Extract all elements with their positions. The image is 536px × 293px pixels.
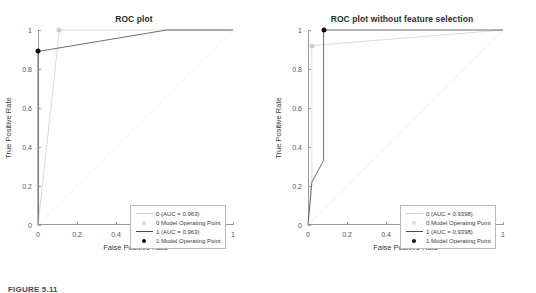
y-axis-title: True Positive Rate <box>274 97 283 158</box>
plot-axes-right: 0 0.2 0.4 0.6 0.8 1 0 0.2 0.4 0.6 0.8 1 … <box>308 30 503 225</box>
legend-line-icon <box>134 213 154 214</box>
y-tick-label: 0.2 <box>292 183 302 190</box>
y-tick-label: 0.4 <box>292 144 302 151</box>
roc-figure: ROC plot 0 0.2 0.4 0.6 0.8 1 <box>0 0 536 293</box>
operating-point-class1 <box>36 49 41 54</box>
x-tick-label: 0 <box>306 231 310 238</box>
legend-dot-icon <box>134 239 154 243</box>
legend-label: 0 Model Operating Point <box>154 220 221 226</box>
y-tick-label: 0 <box>298 222 302 229</box>
legend-item: 1 (AUC = 0.9398) <box>404 227 491 236</box>
figure-caption: FIGURE 5.11 <box>8 285 58 293</box>
legend-label: 1 (AUC = 0.963) <box>154 229 200 235</box>
roc-curves-right <box>308 30 503 225</box>
operating-point-class1 <box>321 28 326 33</box>
legend-dot-icon <box>404 239 424 243</box>
legend-label: 1 Model Operating Point <box>424 238 491 244</box>
x-tick-label: 0.2 <box>72 231 82 238</box>
legend-label: 1 (AUC = 0.9398) <box>424 229 473 235</box>
x-tick-label: 0.4 <box>111 231 121 238</box>
x-tick-label: 0.2 <box>342 231 352 238</box>
roc-curves-left <box>38 30 233 225</box>
panel-roc-without-feature-selection: ROC plot without feature selection 0 0.2… <box>268 0 536 275</box>
x-tick-label: 1 <box>501 231 505 238</box>
x-tick-label: 0 <box>36 231 40 238</box>
legend-label: 1 Model Operating Point <box>154 238 221 244</box>
y-tick-label: 0 <box>28 222 32 229</box>
y-axis-title: True Positive Rate <box>4 97 13 158</box>
legend-item: 1 Model Operating Point <box>134 236 221 245</box>
operating-point-class0 <box>309 43 314 48</box>
legend-line-icon <box>134 231 154 232</box>
legend-item: 1 (AUC = 0.963) <box>134 227 221 236</box>
x-tick-label: 0.4 <box>381 231 391 238</box>
y-tick-label: 0.8 <box>292 66 302 73</box>
legend-item: 1 Model Operating Point <box>404 236 491 245</box>
y-tick-label: 0.2 <box>22 183 32 190</box>
y-tick-label: 0.6 <box>292 105 302 112</box>
legend-left: 0 (AUC = 0.963) 0 Model Operating Point … <box>130 205 226 249</box>
legend-dot-icon <box>134 221 154 225</box>
plot-axes-left: 0 0.2 0.4 0.6 0.8 1 0 0.2 0.4 0.6 0.8 1 … <box>38 30 233 225</box>
y-tick-label: 0.8 <box>22 66 32 73</box>
operating-point-class0 <box>57 28 62 33</box>
y-tick-label: 0.4 <box>22 144 32 151</box>
x-tick-label: 1 <box>231 231 235 238</box>
y-tick-label: 1 <box>298 27 302 34</box>
legend-line-icon <box>404 231 424 232</box>
page-title: ROC plot <box>0 14 268 24</box>
legend-item: 0 Model Operating Point <box>404 218 491 227</box>
legend-right: 0 (AUC = 0.9398) 0 Model Operating Point… <box>400 205 496 249</box>
legend-dot-icon <box>404 221 424 225</box>
y-tick-label: 1 <box>28 27 32 34</box>
legend-line-icon <box>404 213 424 214</box>
legend-item: 0 Model Operating Point <box>134 218 221 227</box>
legend-label: 0 Model Operating Point <box>424 220 491 226</box>
y-tick-label: 0.6 <box>22 105 32 112</box>
page-title: ROC plot without feature selection <box>268 14 536 24</box>
panel-roc-with-feature-selection: ROC plot 0 0.2 0.4 0.6 0.8 1 <box>0 0 268 275</box>
legend-item: 0 (AUC = 0.963) <box>134 209 221 218</box>
legend-item: 0 (AUC = 0.9398) <box>404 209 491 218</box>
chance-line <box>308 30 503 225</box>
legend-label: 0 (AUC = 0.9398) <box>424 211 473 217</box>
legend-label: 0 (AUC = 0.963) <box>154 211 200 217</box>
chance-line <box>38 30 233 225</box>
